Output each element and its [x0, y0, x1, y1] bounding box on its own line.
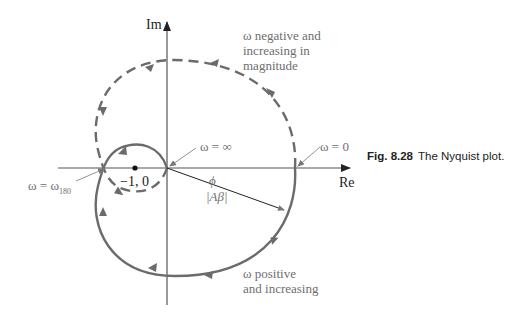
- direction-arrows: [99, 59, 278, 279]
- omega-infinity-label: ω = ∞: [200, 139, 232, 154]
- omega-zero-label: ω = 0: [320, 139, 349, 154]
- figure-caption-text: The Nyquist plot.: [418, 150, 504, 162]
- figure-number: Fig. 8.28: [367, 150, 413, 162]
- omega-180-label: ω = ω180: [28, 178, 71, 199]
- arrow-icon: [99, 207, 107, 216]
- critical-point-dot: [132, 165, 137, 170]
- curve-omega-negative: [96, 60, 296, 191]
- omega-negative-label: ω negative and increasing in magnitude: [243, 28, 321, 73]
- arrow-icon: [99, 107, 107, 116]
- re-axis-label: Re: [339, 175, 355, 190]
- arrow-icon: [148, 263, 157, 272]
- magnitude-label: |Aβ|: [206, 189, 228, 204]
- im-axis-label: Im: [146, 17, 162, 32]
- critical-point-label: −1, 0: [120, 174, 149, 189]
- arrow-icon: [145, 64, 154, 72]
- figure-caption: Fig. 8.28The Nyquist plot.: [367, 150, 504, 162]
- phi-label: ϕ: [209, 173, 216, 188]
- arrow-icon: [210, 59, 219, 67]
- curve-omega-positive: [96, 145, 296, 276]
- omega-positive-label: ω positive and increasing: [243, 266, 318, 296]
